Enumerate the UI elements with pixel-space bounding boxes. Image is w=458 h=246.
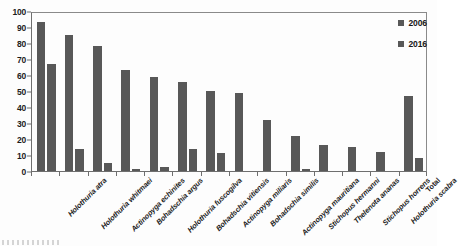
bar-2016: [47, 64, 56, 171]
legend-label-2016: 2016: [408, 39, 427, 49]
y-axis: 0102030405060708090100: [0, 12, 31, 172]
bar-group: [343, 13, 371, 171]
bar-group: [117, 13, 145, 171]
bar-2006: [348, 147, 357, 171]
bar-2006: [93, 46, 102, 171]
y-axis-tick-label: 70: [17, 55, 26, 65]
bar-2016: [415, 158, 424, 171]
bar-group: [173, 13, 201, 171]
legend-label-2006: 2006: [408, 18, 427, 28]
legend-swatch-2006: [398, 20, 404, 26]
y-axis-tick-label: 100: [12, 7, 26, 17]
y-axis-tick-label: 20: [17, 135, 26, 145]
y-axis-tick-label: 10: [17, 151, 26, 161]
scan-artifact: [2, 240, 62, 245]
bar-2016: [104, 163, 113, 171]
bar-group: [145, 13, 173, 171]
bar-2006: [263, 120, 272, 171]
bar-2006: [178, 82, 187, 171]
x-axis-labels: Holothuria atraHolothuria whitmaeiActino…: [31, 176, 427, 246]
y-axis-tick-label: 90: [17, 23, 26, 33]
bar-2006: [291, 136, 300, 171]
y-axis-tick-label: 30: [17, 119, 26, 129]
y-axis-tick-label: 40: [17, 103, 26, 113]
y-axis-tick-label: 0: [21, 167, 26, 177]
bar-2006: [206, 91, 215, 171]
bar-2016: [75, 149, 84, 171]
bar-group: [32, 13, 60, 171]
bars-layer: [32, 13, 426, 171]
bar-group: [202, 13, 230, 171]
chart-legend: 2006 2016: [398, 18, 427, 49]
bar-2006: [65, 35, 74, 171]
bar-2016: [302, 169, 311, 171]
bar-group: [230, 13, 258, 171]
bar-2016: [217, 153, 226, 171]
y-axis-tick-label: 80: [17, 39, 26, 49]
bar-2006: [319, 145, 328, 171]
legend-item-2016: 2016: [398, 39, 427, 49]
bar-group: [287, 13, 315, 171]
bar-group: [60, 13, 88, 171]
bar-2006: [404, 96, 413, 171]
legend-swatch-2016: [398, 41, 404, 47]
bar-2006: [150, 77, 159, 171]
y-axis-tick-label: 60: [17, 71, 26, 81]
bar-group: [315, 13, 343, 171]
bar-2016: [160, 167, 169, 171]
y-axis-tick-label: 50: [17, 87, 26, 97]
bar-2016: [189, 149, 198, 171]
bar-2006: [376, 152, 385, 171]
bar-group: [258, 13, 286, 171]
plot-area: [31, 12, 427, 172]
legend-item-2006: 2006: [398, 18, 427, 28]
bar-2006: [235, 93, 244, 171]
bar-2016: [132, 169, 141, 171]
bar-group: [89, 13, 117, 171]
bar-2006: [37, 22, 46, 171]
bar-2006: [121, 70, 130, 171]
x-axis-label: Holothuria atra: [66, 176, 108, 218]
bar-group: [371, 13, 399, 171]
